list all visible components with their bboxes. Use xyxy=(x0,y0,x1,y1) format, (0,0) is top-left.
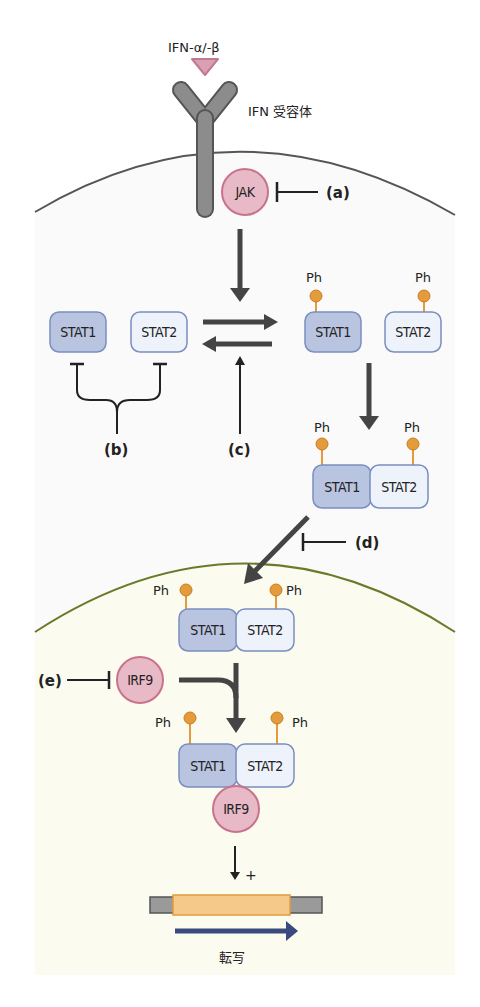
jak-label: JAK xyxy=(235,184,256,200)
ph-label: Ph xyxy=(153,583,169,598)
isgf3-irf9-label: IRF9 xyxy=(223,801,249,817)
label-c: (c) xyxy=(228,441,251,459)
dimer-stat2-label: STAT2 xyxy=(381,479,416,495)
dimer-stat1-label: STAT1 xyxy=(324,479,359,495)
nuc-dimer-stat1-label: STAT1 xyxy=(190,622,225,638)
ph-label: Ph xyxy=(314,420,330,435)
ph-label: Ph xyxy=(306,270,322,285)
ligand-triangle xyxy=(192,59,218,75)
label-a: (a) xyxy=(326,184,350,202)
isgf3-stat2-label: STAT2 xyxy=(247,758,282,774)
stat2-label: STAT2 xyxy=(141,324,176,340)
nuc-dimer-stat2-label: STAT2 xyxy=(247,622,282,638)
isgf3-stat1-label: STAT1 xyxy=(190,758,225,774)
ifn-signaling-diagram: IFN-α/-β IFN 受容体 JAK (a) STAT1 STAT2 (c) xyxy=(0,0,480,1007)
label-b: (b) xyxy=(104,441,128,459)
ph-label: Ph xyxy=(404,420,420,435)
gene xyxy=(150,895,322,915)
irf9-label: IRF9 xyxy=(127,672,153,688)
label-e: (e) xyxy=(38,672,62,690)
ph-label: Ph xyxy=(292,715,308,730)
stat1-label: STAT1 xyxy=(60,324,95,340)
activation-sign: + xyxy=(245,867,257,883)
stat2-p-label: STAT2 xyxy=(395,324,430,340)
transcription-label: 転写 xyxy=(219,950,245,965)
ph-label: Ph xyxy=(286,583,302,598)
ph-label: Ph xyxy=(415,270,431,285)
label-d: (d) xyxy=(355,534,379,552)
receptor-label: IFN 受容体 xyxy=(248,104,312,119)
ph-label: Ph xyxy=(155,715,171,730)
ligand-label: IFN-α/-β xyxy=(168,40,220,55)
stat1-p-label: STAT1 xyxy=(315,324,350,340)
